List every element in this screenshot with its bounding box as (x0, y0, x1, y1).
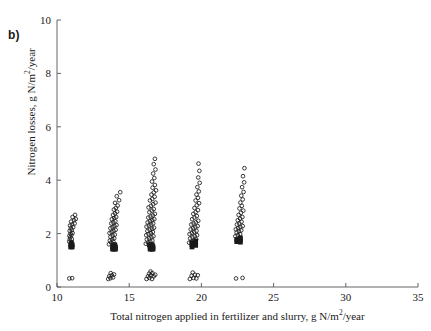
y-axis-tick-label: 2 (46, 228, 52, 240)
data-point-filled (151, 247, 156, 252)
data-point (239, 211, 243, 215)
data-point (113, 201, 117, 205)
x-axis-tick-label: 30 (340, 291, 352, 303)
y-axis-tick-label: 6 (46, 121, 52, 133)
data-point (196, 176, 200, 180)
data-point (152, 191, 156, 195)
data-point (237, 213, 241, 217)
data-point-filled (69, 240, 74, 245)
y-axis-tick-label: 10 (40, 14, 52, 26)
data-point (197, 201, 201, 205)
data-point (241, 198, 245, 202)
data-point-filled (70, 245, 75, 250)
data-point (152, 162, 156, 166)
data-point (239, 194, 243, 198)
x-axis-tick-label: 10 (52, 291, 64, 303)
data-point-filled (190, 245, 195, 250)
y-axis-tick-label: 8 (46, 67, 52, 79)
data-point-filled (113, 247, 118, 252)
data-point (73, 213, 77, 217)
data-point (242, 180, 246, 184)
data-point (150, 193, 154, 197)
data-point (154, 168, 158, 172)
x-axis-tick-label: 25 (268, 291, 280, 303)
scatter-plot-canvas: 1015202530350246810 (0, 0, 431, 331)
data-point (196, 185, 200, 189)
data-point (118, 190, 122, 194)
data-point-filled (112, 242, 117, 247)
data-point (197, 190, 201, 194)
data-point (153, 157, 157, 161)
figure-panel: b) Nitrogen losses, g N/m2/year Total ni… (0, 0, 431, 331)
data-point (197, 162, 201, 166)
data-point-filled (238, 240, 243, 245)
data-point (196, 208, 200, 212)
series-nitrogen-losses-dense-block (68, 235, 242, 251)
data-point (243, 166, 247, 170)
data-point (198, 169, 202, 173)
data-point (154, 188, 158, 192)
data-point (153, 183, 157, 187)
data-point (241, 276, 245, 280)
data-point (115, 194, 119, 198)
data-point (152, 176, 156, 180)
data-point (240, 185, 244, 189)
data-point (150, 180, 154, 184)
x-axis-tick-label: 35 (413, 291, 425, 303)
data-point-filled (147, 242, 152, 247)
data-point (241, 174, 245, 178)
y-axis-tick-label: 0 (46, 281, 52, 293)
data-point (241, 209, 245, 213)
data-point (198, 181, 202, 185)
x-axis-tick-label: 15 (124, 291, 136, 303)
data-point (117, 198, 121, 202)
data-point (151, 172, 155, 176)
data-point (195, 203, 199, 207)
y-axis-tick-label: 4 (46, 174, 52, 186)
x-axis-tick-label: 20 (196, 291, 208, 303)
data-point (242, 190, 246, 194)
data-point (234, 277, 238, 281)
series-nitrogen-losses (67, 157, 246, 281)
